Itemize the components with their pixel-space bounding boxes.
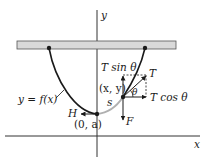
tension-horizontal-label: T cos θ xyxy=(150,92,188,103)
horizontal-tension-label: H xyxy=(68,108,77,119)
y-axis-label: y xyxy=(101,10,107,21)
general-point-label: (x, y) xyxy=(99,83,126,94)
tension-vertical-label: T sin θ xyxy=(101,62,137,73)
weight-label: F xyxy=(126,116,133,127)
origin-point-label: (0, a) xyxy=(74,119,102,130)
angle-label: θ xyxy=(132,88,137,97)
x-axis-label: x xyxy=(194,139,200,150)
support-bar xyxy=(17,41,176,49)
curve-label: y = f(x) xyxy=(18,94,57,105)
arc-length-label: s xyxy=(107,97,112,108)
left-support-point xyxy=(47,46,51,50)
tension-label: T xyxy=(149,68,156,79)
right-support-point xyxy=(143,46,147,50)
